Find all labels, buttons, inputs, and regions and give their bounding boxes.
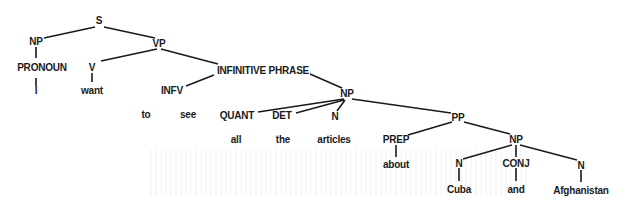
tree-node-n2: N <box>455 158 462 169</box>
tree-node-to: to <box>141 109 150 120</box>
tree-edge <box>310 74 342 88</box>
tree-node-the: the <box>276 134 290 145</box>
tree-node-articles: articles <box>317 134 350 145</box>
tree-node-pronoun: PRONOUN <box>17 62 67 73</box>
tree-edge <box>352 99 451 113</box>
tree-node-i: I <box>35 85 38 96</box>
tree-node-and: and <box>507 184 524 195</box>
tree-node-s: S <box>96 15 102 26</box>
tree-edge <box>104 27 155 38</box>
tree-node-pp: PP <box>452 112 465 123</box>
tree-edge <box>464 122 510 134</box>
tree-node-np1: NP <box>29 36 43 47</box>
tree-node-v: V <box>89 62 95 73</box>
tree-node-conj: CONJ <box>503 158 530 169</box>
tree-edge <box>186 75 214 86</box>
tree-node-quant: QUANT <box>220 110 255 121</box>
tree-edge <box>44 27 95 38</box>
tree-edge <box>408 122 452 135</box>
tree-edge <box>101 49 157 61</box>
tree-node-infp: INFINITIVE PHRASE <box>217 65 309 76</box>
tree-edge <box>161 49 218 64</box>
tree-node-infv: INFV <box>161 85 183 96</box>
tree-node-n3: N <box>577 160 584 171</box>
tree-node-cuba: Cuba <box>447 184 471 195</box>
tree-node-prep: PREP <box>383 134 409 145</box>
tree-node-afghanistan: Afghanistan <box>553 185 609 196</box>
tree-node-det: DET <box>272 110 291 121</box>
tree-node-want: want <box>81 85 103 96</box>
tree-node-vp: VP <box>153 38 166 49</box>
parse-tree-edges <box>0 0 626 210</box>
tree-node-np3: NP <box>509 134 523 145</box>
tree-node-np2: NP <box>340 88 354 99</box>
tree-node-see: see <box>180 109 196 120</box>
tree-node-n1: N <box>331 111 338 122</box>
tree-node-all: all <box>231 134 242 145</box>
tree-node-about: about <box>383 159 409 170</box>
